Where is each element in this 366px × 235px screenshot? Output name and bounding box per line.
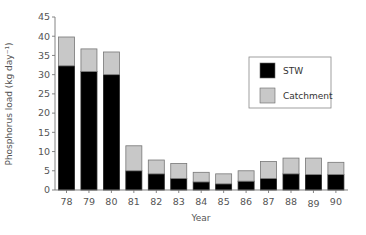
bar-88 [283, 158, 299, 190]
bar-segment-catchment [305, 158, 321, 175]
bar-segment-stw [59, 66, 75, 190]
x-tick-label: 78 [60, 196, 72, 207]
bar-segment-stw [126, 171, 142, 190]
y-tick-label: 20 [38, 107, 50, 118]
legend-label-stw: STW [283, 66, 303, 76]
bar-79 [81, 49, 97, 190]
y-tick-label: 15 [38, 127, 50, 138]
bar-segment-stw [328, 175, 344, 190]
x-tick-label: 82 [150, 196, 162, 207]
bar-85 [216, 174, 232, 190]
bar-segment-stw [103, 75, 119, 190]
bar-segment-catchment [148, 160, 164, 174]
bar-segment-stw [216, 184, 232, 190]
bar-90 [328, 162, 344, 190]
y-tick-label: 5 [44, 165, 50, 176]
bar-segment-stw [283, 174, 299, 190]
bar-83 [171, 163, 187, 190]
x-axis-title: Year [190, 213, 210, 223]
legend-swatch-stw [260, 63, 275, 78]
bar-86 [238, 171, 254, 190]
bar-segment-catchment [238, 171, 254, 181]
x-tick-label: 79 [83, 196, 95, 207]
bar-segment-catchment [81, 49, 97, 72]
x-tick-label: 80 [105, 196, 117, 207]
x-tick-label: 87 [263, 196, 275, 207]
bar-84 [193, 172, 209, 190]
bar-segment-stw [261, 178, 277, 190]
bar-87 [261, 162, 277, 190]
y-tick-label: 0 [44, 184, 50, 195]
x-tick-label: 89 [307, 198, 319, 209]
legend: STW Catchment [249, 57, 333, 108]
x-axis: 78798081828384858687888990 [55, 190, 348, 209]
bar-segment-stw [193, 182, 209, 190]
y-tick-label: 25 [38, 88, 50, 99]
bar-segment-catchment [283, 158, 299, 174]
bar-segment-stw [171, 178, 187, 190]
bar-segment-stw [81, 72, 97, 190]
bar-89 [305, 158, 321, 190]
x-tick-label: 88 [285, 196, 297, 207]
y-tick-label: 30 [38, 69, 50, 80]
bar-81 [126, 146, 142, 190]
bar-segment-catchment [59, 37, 75, 66]
y-tick-label: 10 [38, 146, 50, 157]
bar-segment-catchment [193, 172, 209, 182]
legend-swatch-catchment [260, 88, 275, 103]
bar-82 [148, 160, 164, 190]
bar-segment-catchment [261, 162, 277, 179]
x-tick-label: 85 [218, 196, 230, 207]
y-tick-label: 40 [38, 31, 50, 42]
x-tick-label: 81 [128, 196, 140, 207]
x-tick-label: 86 [240, 196, 252, 207]
x-tick-label: 90 [330, 196, 342, 207]
legend-label-catchment: Catchment [283, 91, 333, 101]
x-tick-label: 83 [173, 196, 185, 207]
bar-segment-stw [148, 174, 164, 190]
y-tick-label: 45 [38, 11, 50, 22]
stacked-bar-chart: 051015202530354045 787980818283848586878… [0, 0, 366, 235]
bar-segment-catchment [171, 163, 187, 178]
bar-segment-stw [305, 175, 321, 190]
bar-segment-catchment [103, 52, 119, 75]
bar-80 [103, 52, 119, 190]
bar-segment-catchment [126, 146, 142, 171]
y-axis-title: Phosphorus load (kg day⁻¹) [4, 42, 14, 165]
bar-segment-catchment [328, 162, 344, 174]
y-axis: 051015202530354045 [38, 11, 55, 195]
y-tick-label: 35 [38, 50, 50, 61]
bar-78 [59, 37, 75, 190]
bar-segment-catchment [216, 174, 232, 184]
x-tick-label: 84 [195, 196, 207, 207]
bar-segment-stw [238, 181, 254, 190]
